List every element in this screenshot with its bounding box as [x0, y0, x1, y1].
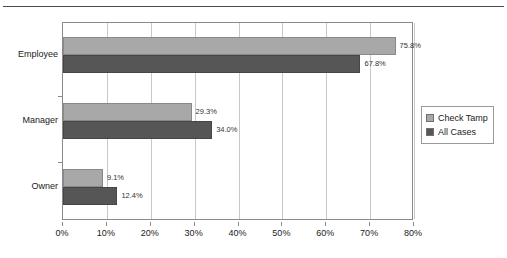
x-axis-label: 20%	[141, 228, 159, 239]
x-axis-label: 80%	[404, 228, 422, 239]
bar-group: 29.3%34.0%	[63, 103, 412, 139]
x-axis-tick	[413, 222, 414, 226]
bar-value-label: 75.8%	[400, 41, 421, 51]
x-axis-tick	[238, 222, 239, 226]
chart-page: EmployeeManagerOwner 75.8%67.8%29.3%34.0…	[0, 0, 507, 258]
x-axis-label: 60%	[316, 228, 334, 239]
category-label-employee: Employee	[2, 49, 58, 60]
x-axis-tick	[106, 222, 107, 226]
bar-group: 9.1%12.4%	[63, 169, 412, 205]
x-axis: 0%10%20%30%40%50%60%70%80%	[62, 222, 413, 242]
x-axis-tick	[62, 222, 63, 226]
bar-employee-all-cases[interactable]	[63, 55, 360, 73]
gridline	[414, 23, 415, 219]
legend-item-check-tamp[interactable]: Check Tamp	[426, 111, 488, 125]
bars-container: 75.8%67.8%29.3%34.0%9.1%12.4%	[63, 23, 412, 219]
x-axis-label: 10%	[97, 228, 115, 239]
legend-swatch-icon	[426, 128, 434, 136]
bar-value-label: 34.0%	[216, 125, 237, 135]
x-axis-tick	[325, 222, 326, 226]
bar-value-label: 12.4%	[121, 191, 142, 201]
bar-manager-check-tamp[interactable]	[63, 103, 192, 121]
y-axis-category-labels: EmployeeManagerOwner	[0, 22, 58, 220]
legend-label: All Cases	[438, 127, 476, 138]
bar-value-label: 9.1%	[107, 173, 124, 183]
bar-owner-check-tamp[interactable]	[63, 169, 103, 187]
category-label-owner: Owner	[2, 181, 58, 192]
header-ghost-text	[160, 0, 250, 5]
header-divider	[3, 6, 504, 7]
x-axis-label: 0%	[55, 228, 68, 239]
legend-item-all-cases[interactable]: All Cases	[426, 125, 488, 139]
x-axis-tick	[369, 222, 370, 226]
y-axis-tick	[58, 96, 62, 97]
x-axis-tick	[281, 222, 282, 226]
x-axis-label: 40%	[228, 228, 246, 239]
y-axis-tick	[58, 162, 62, 163]
x-axis-label: 30%	[185, 228, 203, 239]
bar-value-label: 29.3%	[196, 107, 217, 117]
x-axis-tick	[194, 222, 195, 226]
bar-employee-check-tamp[interactable]	[63, 37, 396, 55]
legend-swatch-icon	[426, 114, 434, 122]
bar-owner-all-cases[interactable]	[63, 187, 117, 205]
x-axis-label: 50%	[272, 228, 290, 239]
x-axis-label: 70%	[360, 228, 378, 239]
category-label-manager: Manager	[2, 115, 58, 126]
plot-area: 75.8%67.8%29.3%34.0%9.1%12.4%	[62, 22, 413, 220]
legend-label: Check Tamp	[438, 113, 488, 124]
bar-value-label: 67.8%	[364, 59, 385, 69]
chart-legend: Check TampAll Cases	[421, 106, 494, 144]
x-axis-tick	[150, 222, 151, 226]
bar-manager-all-cases[interactable]	[63, 121, 212, 139]
bar-group: 75.8%67.8%	[63, 37, 412, 73]
